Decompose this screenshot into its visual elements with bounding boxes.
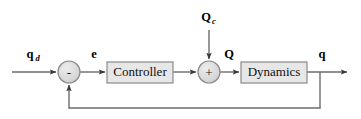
disturbance-subscript: c xyxy=(212,16,216,26)
error-symbol: e xyxy=(91,47,97,61)
reference-subscript: d xyxy=(36,53,41,63)
reference-symbol: q xyxy=(27,47,34,61)
signal-label-output: q xyxy=(319,47,326,61)
block-dynamics[interactable]: Dynamics xyxy=(241,62,307,83)
controller-label: Controller xyxy=(113,64,167,79)
control-effort-symbol: Q xyxy=(224,47,234,61)
signal-label-reference: q d xyxy=(27,47,41,63)
block-diagram-svg: Controller Dynamics - + q d e Q c Q xyxy=(0,0,361,119)
signal-label-disturbance: Q c xyxy=(201,10,216,26)
error-sum-sign: - xyxy=(67,65,71,80)
junction-error-sum[interactable]: - xyxy=(58,61,80,83)
block-controller[interactable]: Controller xyxy=(107,62,173,83)
torque-sum-sign: + xyxy=(205,65,212,80)
block-diagram-canvas: Controller Dynamics - + q d e Q c Q xyxy=(0,0,361,119)
dynamics-label: Dynamics xyxy=(248,64,301,79)
signal-label-control-effort: Q xyxy=(224,47,234,61)
output-symbol: q xyxy=(319,47,326,61)
junction-torque-sum[interactable]: + xyxy=(198,61,220,83)
disturbance-symbol: Q xyxy=(201,10,211,24)
signal-label-error: e xyxy=(91,47,97,61)
